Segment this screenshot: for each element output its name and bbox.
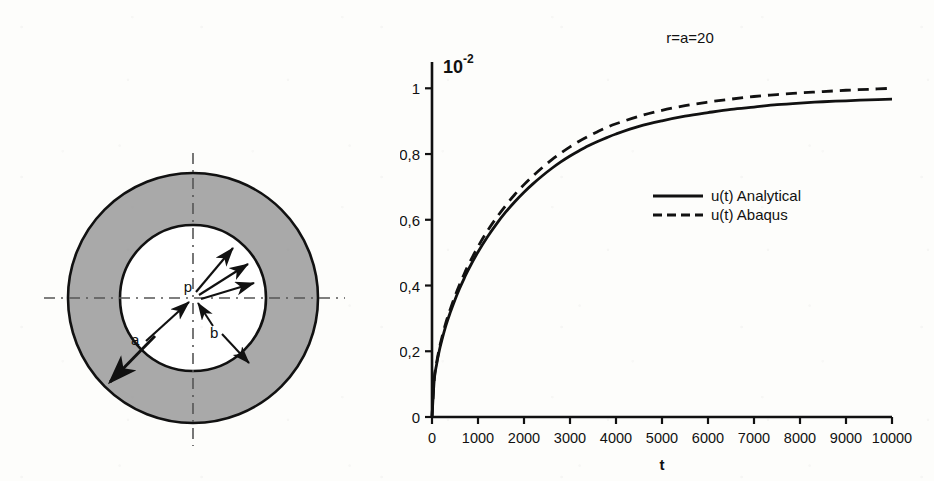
x-tick-label: 9000 xyxy=(830,430,862,446)
chart-title: r=a=20 xyxy=(666,29,714,46)
y-scale-mantissa: 10 xyxy=(443,57,463,77)
x-tick-label: 2000 xyxy=(508,430,540,446)
x-tick-label: 0 xyxy=(428,430,436,446)
x-tick-label: 7000 xyxy=(738,430,770,446)
x-axis-ticks: 0100020003000400050006000700080009000100… xyxy=(428,417,912,446)
series-analytical-curve xyxy=(432,99,892,417)
x-axis-label: t xyxy=(660,456,665,473)
y-tick-label: 1 xyxy=(412,80,420,97)
annulus-diagram-svg: p a b xyxy=(0,0,400,481)
y-axis-scale-exponent: 10 -2 xyxy=(443,52,474,77)
y-tick-label: 0,8 xyxy=(400,146,420,163)
y-tick-label: 0,6 xyxy=(400,212,420,229)
x-tick-label: 4000 xyxy=(600,430,632,446)
x-tick-label: 5000 xyxy=(646,430,678,446)
annulus-diagram-panel: p a b xyxy=(0,0,400,481)
y-axis-ticks: 00,20,40,60,81 xyxy=(400,80,432,426)
y-tick-label: 0,4 xyxy=(400,278,420,295)
y-tick-label: 0 xyxy=(412,409,420,426)
figure-canvas: p a b r=a=20 10 -2 xyxy=(0,0,934,481)
x-tick-label: 6000 xyxy=(692,430,724,446)
radius-a-label: a xyxy=(131,331,140,348)
y-tick-label: 0,2 xyxy=(400,343,420,360)
legend-label-abaqus: u(t) Abaqus xyxy=(711,206,788,223)
x-tick-label: 3000 xyxy=(554,430,586,446)
chart-panel: r=a=20 10 -2 00,20,40,60,81 010002000300… xyxy=(400,0,934,481)
y-scale-superscript: -2 xyxy=(463,52,474,66)
x-tick-label: 8000 xyxy=(784,430,816,446)
series-abaqus-curve xyxy=(432,88,892,417)
x-tick-label: 10000 xyxy=(872,430,912,446)
pressure-label: p xyxy=(184,278,192,295)
x-tick-label: 1000 xyxy=(462,430,494,446)
legend-label-analytical: u(t) Analytical xyxy=(711,187,801,204)
radius-b-label: b xyxy=(210,324,218,341)
displacement-vs-time-chart: r=a=20 10 -2 00,20,40,60,81 010002000300… xyxy=(400,0,934,481)
chart-legend: u(t) Analytical u(t) Abaqus xyxy=(653,187,801,223)
